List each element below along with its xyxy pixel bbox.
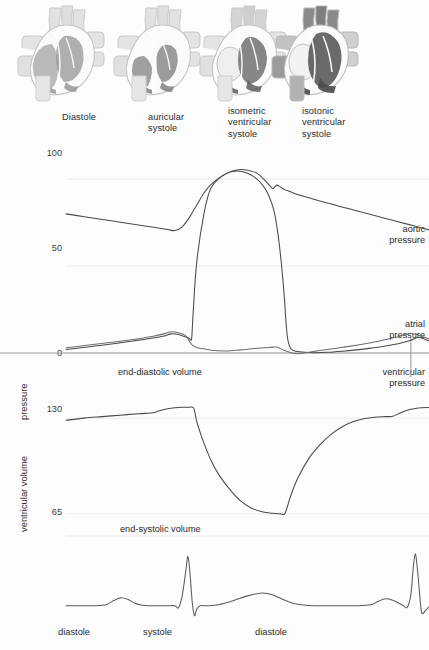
volume-plot-svg [0,392,429,542]
heart-diagram-strip: Diastole auricular systole isometric ven… [0,0,429,132]
pressure-chart: pressure 100 50 0 aortic pressure atrial… [0,145,429,385]
volume-chart: ventricular volume 130 65 end-systolic v… [0,392,429,542]
ecg-chart: diastole systole diastole [0,540,429,650]
heart-label-diastole: Diastole [62,112,96,123]
phase-label-diastole-1: diastole [58,627,90,637]
pressure-plot-svg [0,145,429,385]
phase-label-diastole-2: diastole [255,627,287,637]
phase-label-systole: systole [143,627,172,637]
heart-diagram-diastole [14,2,112,102]
heart-label-isometric-systole: isometric ventricular systole [228,106,271,140]
heart-diagram-isotonic-systole [268,2,366,102]
heart-diagram-auricular-systole [110,2,208,102]
heart-label-isotonic-systole: isotonic ventricular systole [302,106,345,140]
figure-root: Diastole auricular systole isometric ven… [0,0,429,650]
heart-label-auricular-systole: auricular systole [148,112,184,135]
ecg-plot-svg [0,540,429,630]
